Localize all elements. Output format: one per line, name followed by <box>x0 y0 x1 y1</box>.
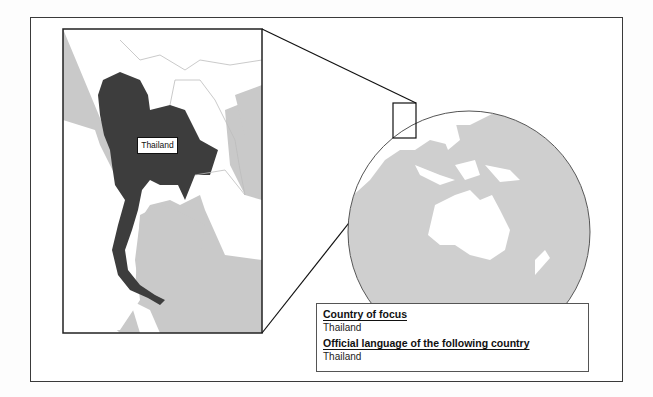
language-value: Thailand <box>323 350 582 363</box>
country-label: Thailand <box>137 137 178 154</box>
inset-map <box>63 29 262 333</box>
country-value: Thailand <box>323 321 582 334</box>
country-heading: Country of focus <box>323 307 582 321</box>
language-heading: Official language of the following count… <box>323 336 582 350</box>
info-box: Country of focus Thailand Official langu… <box>316 303 589 372</box>
